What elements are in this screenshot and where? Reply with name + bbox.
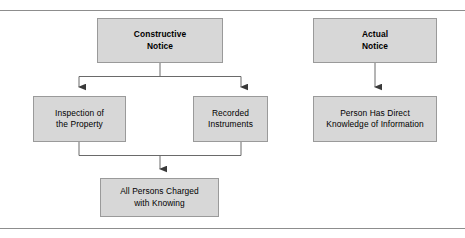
node-inspection-of-the-property-label: Inspection of the Property <box>55 108 104 130</box>
node-person-has-direct-knowledge-label: Person Has Direct Knowledge of Informati… <box>326 108 423 130</box>
edge-constructive-notice-fork <box>79 63 241 87</box>
node-recorded-instruments: Recorded Instruments <box>193 96 268 142</box>
node-constructive-notice-label: Constructive Notice <box>134 29 186 51</box>
node-actual-notice: Actual Notice <box>313 18 437 63</box>
node-recorded-instruments-label: Recorded Instruments <box>208 108 253 130</box>
node-actual-notice-label: Actual Notice <box>362 29 388 51</box>
node-constructive-notice: Constructive Notice <box>97 18 223 63</box>
flowchart-diagram: Constructive Notice Actual Notice Inspec… <box>0 0 465 238</box>
node-all-persons-charged-with-knowing-label: All Persons Charged with Knowing <box>120 186 199 208</box>
node-person-has-direct-knowledge: Person Has Direct Knowledge of Informati… <box>313 96 437 142</box>
node-inspection-of-the-property: Inspection of the Property <box>33 96 126 142</box>
edge-merge-to-all-persons <box>79 142 241 169</box>
node-all-persons-charged-with-knowing: All Persons Charged with Knowing <box>100 178 219 217</box>
